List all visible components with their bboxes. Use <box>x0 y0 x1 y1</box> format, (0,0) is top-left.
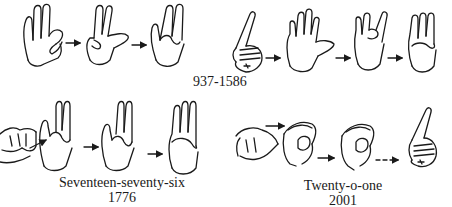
number-2001: 2001 <box>300 193 386 207</box>
hand-sign-3 <box>87 6 128 65</box>
hand-sign-1-end <box>409 108 436 167</box>
hand-sign-2-twist <box>236 128 278 159</box>
hand-sign-8 <box>355 12 387 70</box>
caption-twenty-o-one: Twenty-o-one <box>300 178 386 193</box>
hand-sign-9 <box>24 4 63 66</box>
hand-sign-7-repeat <box>102 102 134 171</box>
hand-sign-10-fist <box>0 128 36 163</box>
hand-sign-7 <box>151 4 184 66</box>
caption-seventeen-seventy-six: Seventeen-seventy-six <box>47 175 197 190</box>
hand-sign-0 <box>283 122 316 166</box>
arrow-icon <box>30 140 46 148</box>
caption-937-1586: 937-1586 <box>193 74 247 89</box>
hand-sign-5 <box>287 9 334 72</box>
hand-sign-6-end <box>169 102 198 175</box>
hand-sign-7-start <box>40 102 72 171</box>
hand-sign-1 <box>233 12 262 72</box>
number-1776: 1776 <box>47 190 197 205</box>
hand-sign-0-repeat <box>341 124 374 170</box>
hand-sign-6 <box>409 13 436 72</box>
